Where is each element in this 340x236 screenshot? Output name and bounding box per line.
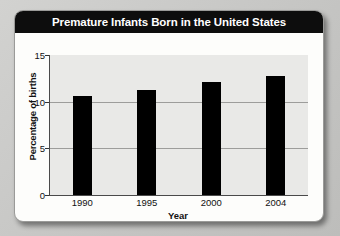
page-background: Premature Infants Born in the United Sta…: [0, 0, 340, 236]
chart-area: Percentage of births 15 10 5 0: [15, 33, 324, 222]
bar-2000: [202, 82, 221, 195]
page-title: Premature Infants Born in the United Sta…: [52, 16, 286, 28]
y-tick-label: 0: [19, 190, 45, 201]
x-axis-label: Year: [49, 210, 307, 221]
y-tick-label: 5: [19, 143, 45, 154]
y-axis-ticks: 15 10 5 0: [15, 33, 45, 222]
x-axis-ticks: 1990 1995 2000 2004: [49, 197, 307, 208]
x-tick-label: 2004: [265, 197, 284, 208]
x-tick-label: 1990: [72, 197, 91, 208]
chart-card: Premature Infants Born in the United Sta…: [14, 10, 324, 222]
x-tick-label: 1995: [136, 197, 155, 208]
x-tick-label: 2000: [201, 197, 220, 208]
chart-title-bar: Premature Infants Born in the United Sta…: [15, 11, 323, 33]
bar-2004: [266, 76, 285, 195]
plot-area: [49, 55, 308, 196]
y-tick-label: 15: [19, 50, 45, 61]
bar-series: [50, 55, 308, 195]
bar-1995: [137, 90, 156, 195]
bar-1990: [73, 96, 92, 195]
y-tick-label: 10: [19, 96, 45, 107]
